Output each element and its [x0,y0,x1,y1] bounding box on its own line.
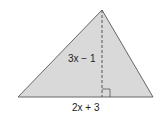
triangle-diagram: 3x − 1 2x + 3 [0,0,161,116]
base-label: 2x + 3 [72,102,100,113]
height-label: 3x − 1 [68,53,96,64]
